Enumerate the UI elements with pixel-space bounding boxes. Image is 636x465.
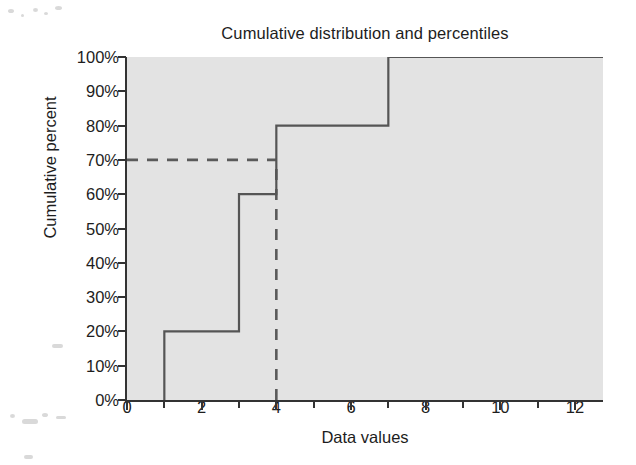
y-tick-mark xyxy=(118,296,126,298)
y-tick-label: 100% xyxy=(77,48,119,67)
x-tick-mark-major xyxy=(574,402,576,410)
y-tick-mark xyxy=(118,330,126,332)
x-axis-line xyxy=(125,400,603,402)
y-tick-mark xyxy=(118,365,126,367)
y-tick-mark xyxy=(118,125,126,127)
y-tick-label: 50% xyxy=(86,219,119,238)
plot-canvas xyxy=(127,57,603,400)
y-tick-label: 60% xyxy=(86,185,119,204)
y-tick-label: 40% xyxy=(86,253,119,272)
x-tick-mark-major xyxy=(275,402,277,410)
x-tick-mark-major xyxy=(425,402,427,410)
y-tick-mark xyxy=(118,90,126,92)
x-tick-mark-minor xyxy=(238,402,240,408)
y-tick-label: 10% xyxy=(86,356,119,375)
y-tick-label: 20% xyxy=(86,322,119,341)
y-tick-label: 70% xyxy=(86,150,119,169)
x-tick-mark-minor xyxy=(163,402,165,408)
y-axis-tick-labels: 0%10%20%30%40%50%60%70%80%90%100% xyxy=(0,0,119,465)
plot-area xyxy=(127,57,603,400)
x-tick-mark-major xyxy=(350,402,352,410)
chart-title: Cumulative distribution and percentiles xyxy=(127,24,603,43)
y-tick-mark xyxy=(118,56,126,58)
x-tick-mark-major xyxy=(201,402,203,410)
y-tick-mark xyxy=(118,399,126,401)
y-tick-mark xyxy=(118,262,126,264)
x-tick-mark-minor xyxy=(462,402,464,408)
y-tick-mark xyxy=(118,159,126,161)
x-tick-mark-minor xyxy=(537,402,539,408)
y-tick-label: 30% xyxy=(86,288,119,307)
y-tick-mark xyxy=(118,228,126,230)
y-tick-mark xyxy=(118,193,126,195)
x-tick-mark-major xyxy=(499,402,501,410)
chart-figure: Cumulative distribution and percentiles … xyxy=(0,0,636,465)
x-tick-mark-minor xyxy=(313,402,315,408)
x-tick-mark-minor xyxy=(387,402,389,408)
x-axis-title: Data values xyxy=(127,428,603,447)
x-axis-tick-labels: 024681012 xyxy=(0,398,636,428)
y-tick-label: 90% xyxy=(86,82,119,101)
cdf-step-line xyxy=(164,57,603,400)
y-tick-label: 80% xyxy=(86,116,119,135)
x-tick-mark-major xyxy=(126,402,128,410)
